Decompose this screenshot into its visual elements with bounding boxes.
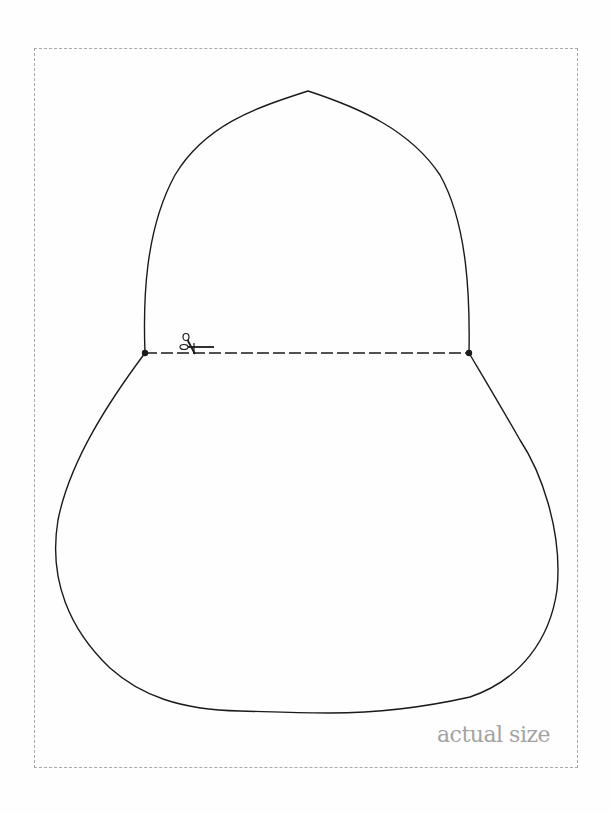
scissors-icon (180, 334, 214, 355)
pattern-page: actual size (0, 0, 610, 813)
upper-dome-outline (144, 91, 469, 353)
left-dot (142, 350, 148, 356)
actual-size-label: actual size (437, 722, 550, 747)
lower-body-outline (56, 353, 558, 713)
pattern-outline (0, 0, 610, 813)
right-dot (466, 350, 472, 356)
